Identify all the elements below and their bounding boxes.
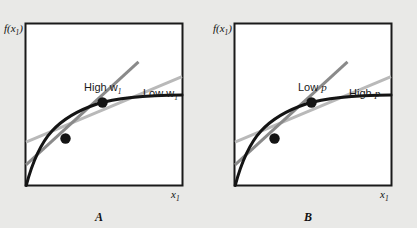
figure-root: f(x1) High w1 Low w1 x1 A f(: [0, 0, 417, 228]
panel-b-plot: f(x1) Low p High p x1 B: [209, 0, 417, 228]
y-axis-label-b: f(x1): [213, 22, 232, 37]
x-axis-label-a: x1: [170, 188, 180, 203]
tangency-point-shallow-a: [97, 97, 107, 107]
panel-b: f(x1) Low p High p x1 B: [209, 0, 417, 228]
y-axis-label-a: f(x1): [4, 22, 23, 37]
x-axis-label-b: x1: [379, 188, 389, 203]
panel-a: f(x1) High w1 Low w1 x1 A: [0, 0, 208, 228]
steep-line-label-b: Low p: [298, 81, 327, 93]
shallow-line-label-b: High p: [349, 87, 381, 99]
panel-a-plot: f(x1) High w1 Low w1 x1 A: [0, 0, 208, 228]
tangency-point-steep-b: [269, 133, 279, 143]
panel-caption-b: B: [303, 210, 312, 224]
tangency-point-shallow-b: [306, 97, 316, 107]
panel-caption-a: A: [94, 210, 103, 224]
tangency-point-steep-a: [60, 133, 70, 143]
